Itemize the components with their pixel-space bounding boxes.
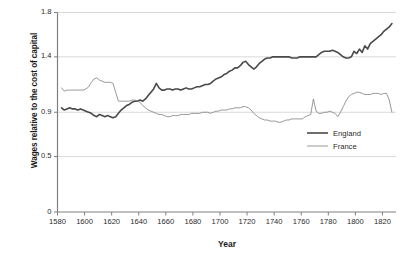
y-tick-label: 0.9 xyxy=(30,108,52,116)
legend-label-england: England xyxy=(333,129,361,138)
series-line-france xyxy=(62,78,392,122)
x-tick-label: 1820 xyxy=(365,218,399,226)
series-line-england xyxy=(62,24,392,118)
tick-marks xyxy=(54,13,382,216)
data-series-layer xyxy=(62,24,392,123)
y-tick-label: 0.5 xyxy=(30,152,52,160)
legend-label-france: France xyxy=(333,142,357,151)
y-tick-label: 1.8 xyxy=(30,8,52,16)
legend-swatches xyxy=(307,133,328,146)
y-tick-label: 0 xyxy=(30,208,52,216)
chart-figure: Wages relative to the cost of capital Ye… xyxy=(0,0,413,262)
y-tick-label: 1.4 xyxy=(30,52,52,60)
